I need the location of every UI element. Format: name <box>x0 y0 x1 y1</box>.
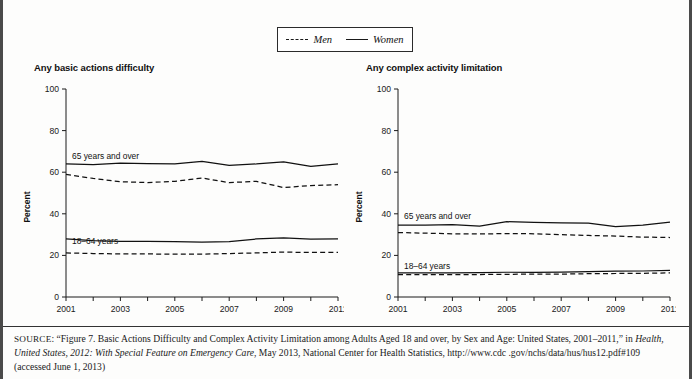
source-label: SOURCE <box>14 334 51 344</box>
x-tick-label: 2009 <box>274 304 293 314</box>
y-tick-label: 100 <box>377 84 392 94</box>
figure-page: Men Women Any basic actions difficulty P… <box>0 0 692 379</box>
y-tick-label: 20 <box>381 250 391 260</box>
dashed-line-icon <box>286 39 308 40</box>
series-line-solid <box>398 222 670 227</box>
annotation-65-and-over: 65 years and over <box>72 151 139 161</box>
series-line-dashed <box>66 174 338 187</box>
x-tick-label: 2009 <box>606 304 625 314</box>
x-tick-label: 2001 <box>56 304 75 314</box>
annotation-65-and-over: 65 years and over <box>404 211 471 221</box>
y-tick-label: 20 <box>49 250 59 260</box>
y-tick-label: 60 <box>49 167 59 177</box>
chart-legend: Men Women <box>277 27 413 52</box>
source-line1: : “Figure 7. Basic Actions Difficulty an… <box>51 333 571 344</box>
x-tick-label: 2005 <box>497 304 516 314</box>
annotation-18-64: 18–64 years <box>72 236 118 246</box>
panel-title-right: Any complex activity limitation <box>366 62 676 73</box>
panel-complex-activity-limitation: Any complex activity limitation Percent … <box>358 62 676 331</box>
source-line2-tail: , May 2013, National Center for Health S… <box>254 347 506 358</box>
series-line-dashed <box>398 233 670 238</box>
legend-label-women: Women <box>373 34 404 45</box>
source-note: SOURCE: “Figure 7. Basic Actions Difficu… <box>14 332 674 373</box>
x-tick-label: 2003 <box>111 304 130 314</box>
chart-svg-right: 02040608010020012003200520072009201165 y… <box>358 79 676 331</box>
legend-item-men: Men <box>286 34 332 45</box>
x-tick-label: 2007 <box>552 304 571 314</box>
chart-svg-left: 02040608010020012003200520072009201165 y… <box>26 79 344 331</box>
panel-basic-actions-difficulty: Any basic actions difficulty Percent 020… <box>26 62 344 331</box>
x-tick-label: 2007 <box>220 304 239 314</box>
y-tick-label: 60 <box>381 167 391 177</box>
x-tick-label: 2003 <box>443 304 462 314</box>
x-tick-label: 2011 <box>329 304 344 314</box>
annotation-18-64: 18–64 years <box>404 261 450 271</box>
x-tick-label: 2011 <box>661 304 676 314</box>
legend-item-women: Women <box>346 34 404 45</box>
source-divider <box>3 326 689 327</box>
legend-label-men: Men <box>313 34 332 45</box>
solid-line-icon <box>346 39 368 40</box>
y-tick-label: 40 <box>381 209 391 219</box>
y-tick-label: 80 <box>49 126 59 136</box>
page-border-left <box>0 0 3 379</box>
series-line-solid <box>66 161 338 166</box>
plot-area-right: Percent 02040608010020012003200520072009… <box>358 79 676 331</box>
x-tick-label: 2001 <box>388 304 407 314</box>
source-line2-lead: 2001–2011,” in <box>573 333 635 344</box>
series-line-dashed <box>66 252 338 254</box>
y-tick-label: 80 <box>381 126 391 136</box>
y-tick-label: 40 <box>49 209 59 219</box>
x-tick-label: 2005 <box>165 304 184 314</box>
panel-title-left: Any basic actions difficulty <box>34 62 344 73</box>
y-tick-label: 0 <box>386 292 391 302</box>
plot-area-left: Percent 02040608010020012003200520072009… <box>26 79 344 331</box>
y-tick-label: 100 <box>45 84 60 94</box>
y-tick-label: 0 <box>54 292 59 302</box>
